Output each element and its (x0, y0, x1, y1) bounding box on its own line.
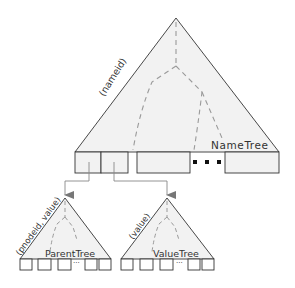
parent-tree-leaf-boxes (20, 259, 111, 270)
leaf-box-2 (101, 152, 128, 173)
tree-diagram: (nameid) NameTree (pnodeid, value) Paren… (0, 0, 295, 288)
name-tree-leaf-boxes (75, 152, 279, 173)
leaf-box-1 (75, 152, 101, 173)
leaf-box-4 (225, 152, 279, 173)
parent-tree-ellipsis: ... (73, 257, 80, 265)
name-tree-label: NameTree (211, 139, 269, 151)
parent-tree: (pnodeid, value) ParentTree ... (14, 195, 111, 270)
name-tree-ellipsis (193, 160, 221, 164)
name-tree: (nameid) NameTree (75, 18, 279, 173)
value-tree: (value) ValueTree ... (121, 198, 214, 270)
value-tree-ellipsis: ... (176, 257, 183, 265)
parent-tree-label: ParentTree (45, 248, 95, 259)
leaf-box-3 (137, 152, 190, 173)
value-tree-leaf-boxes (121, 259, 214, 270)
